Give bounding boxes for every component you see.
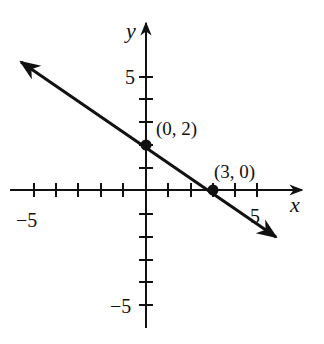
point-label-3-0: (3, 0): [214, 161, 255, 183]
coordinate-graph: y x 5 −5 −5 5 (0, 2) (3, 0): [0, 0, 324, 344]
y-tick-label-5: 5: [125, 66, 135, 88]
y-tick-label-neg5: −5: [110, 295, 131, 317]
x-axis-label: x: [289, 192, 300, 217]
x-tick-label-5: 5: [250, 205, 260, 227]
point-0-2: [141, 140, 152, 151]
y-axis-label: y: [124, 18, 136, 43]
x-tick-label-neg5: −5: [16, 209, 37, 231]
point-3-0: [208, 185, 219, 196]
point-label-0-2: (0, 2): [156, 118, 197, 140]
